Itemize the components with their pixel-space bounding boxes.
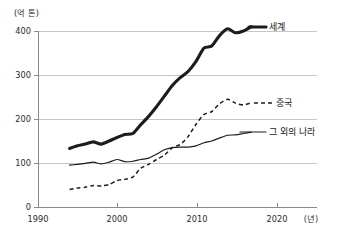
y-tick-label-300: 300	[15, 70, 31, 80]
y-tick-label-0: 0	[26, 202, 31, 212]
x-tick-label-2020: 2020	[267, 214, 288, 224]
y-tick-label-100: 100	[15, 158, 31, 168]
x-axis-tick-labels: 1990 2000 2010 2020 (년)	[28, 214, 319, 224]
chart-container: (억 톤) 400 300 200 100 0	[0, 0, 337, 243]
series-line-other-countries	[70, 132, 252, 165]
series-label-china: 중국	[276, 98, 292, 108]
gridlines	[38, 31, 317, 163]
series-label-world: 세계	[269, 21, 285, 32]
x-axis-ticks	[38, 203, 277, 207]
series-line-world	[70, 27, 252, 149]
y-axis-tick-labels: 400 300 200 100 0	[15, 26, 31, 212]
x-tick-label-2010: 2010	[187, 214, 208, 224]
y-tick-label-200: 200	[15, 114, 31, 124]
x-tick-label-2000: 2000	[107, 214, 128, 224]
y-axis-ticks	[34, 31, 38, 207]
line-chart: (억 톤) 400 300 200 100 0	[0, 0, 337, 243]
y-axis-unit-label: (억 톤)	[14, 8, 39, 18]
series-label-other-countries: 그 외의 나라	[269, 126, 316, 137]
x-tick-label-1990: 1990	[28, 214, 49, 224]
y-tick-label-400: 400	[15, 26, 31, 36]
x-axis-unit-label: (년)	[304, 214, 318, 224]
